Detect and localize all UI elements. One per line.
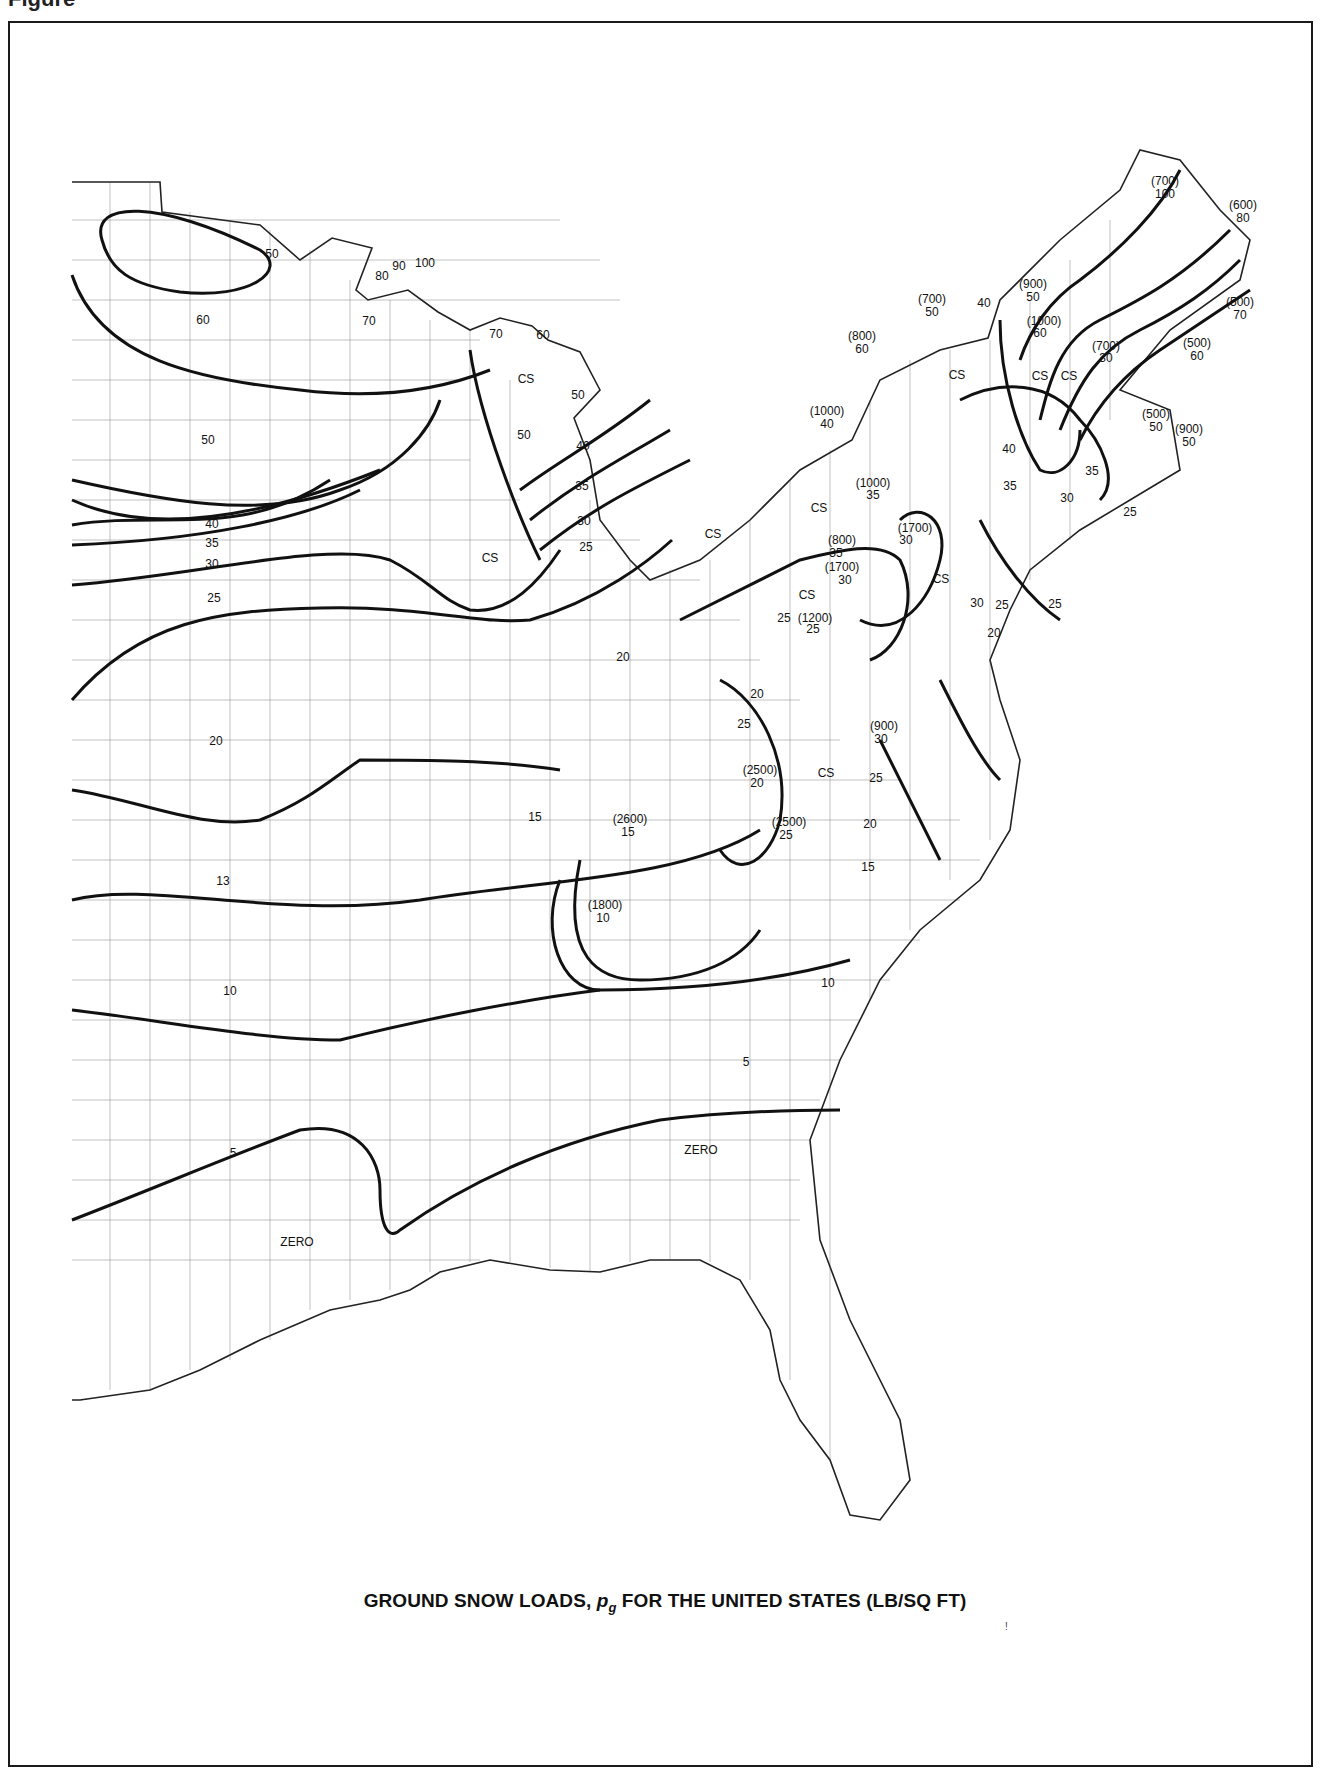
contour-label: 60 bbox=[855, 342, 869, 356]
contour-label: (2600) bbox=[613, 812, 648, 826]
contour-label: (900) bbox=[1175, 422, 1203, 436]
contour-label: 25 bbox=[869, 771, 883, 785]
contour-label: 25 bbox=[995, 598, 1009, 612]
contour-label: 20 bbox=[750, 687, 764, 701]
contour-label: 50 bbox=[571, 388, 585, 402]
contour-label: 100 bbox=[1155, 187, 1175, 201]
contour-label: 20 bbox=[750, 776, 764, 790]
contour-label: 35 bbox=[205, 536, 219, 550]
contour-label: 25 bbox=[1123, 505, 1137, 519]
contour-label: 25 bbox=[207, 591, 221, 605]
contour-label: 30 bbox=[1099, 351, 1113, 365]
contour-label: (500) bbox=[1226, 295, 1254, 309]
contour-label: 50 bbox=[1182, 435, 1196, 449]
contour-label: 10 bbox=[223, 984, 237, 998]
contour-label: 70 bbox=[362, 314, 376, 328]
contour-label: 15 bbox=[861, 860, 875, 874]
contour-label: (900) bbox=[870, 719, 898, 733]
contour-label: 50 bbox=[925, 305, 939, 319]
title-text-rest: FOR THE UNITED STATES (LB/SQ FT) bbox=[616, 1590, 966, 1611]
contour-label: 80 bbox=[1236, 211, 1250, 225]
snow-load-map: 50 60 50 80 90 100 70 70 60 CS 50 50 40 … bbox=[0, 0, 1330, 1785]
contour-label: 30 bbox=[899, 533, 913, 547]
contour-label: 25 bbox=[806, 622, 820, 636]
contour-label: 30 bbox=[838, 573, 852, 587]
contour-label: (500) bbox=[1183, 336, 1211, 350]
contour-label: CS bbox=[518, 372, 535, 386]
contour-label: 40 bbox=[1002, 442, 1016, 456]
contour-label: CS bbox=[811, 501, 828, 515]
contour-label: 30 bbox=[577, 514, 591, 528]
contour-label: (600) bbox=[1229, 198, 1257, 212]
contour-label: 40 bbox=[576, 439, 590, 453]
contour-label: 50 bbox=[1026, 290, 1040, 304]
contour-label: 60 bbox=[1190, 349, 1204, 363]
contour-label: 40 bbox=[205, 517, 219, 531]
contour-label: 25 bbox=[779, 828, 793, 842]
contour-label: 70 bbox=[1233, 308, 1247, 322]
contour-label: ZERO bbox=[684, 1143, 717, 1157]
contour-label: 30 bbox=[1060, 491, 1074, 505]
contour-label: 35 bbox=[829, 546, 843, 560]
title-text: GROUND SNOW LOADS, bbox=[364, 1590, 597, 1611]
contour-label: 15 bbox=[528, 810, 542, 824]
contour-label: 35 bbox=[1085, 464, 1099, 478]
contour-label: ZERO bbox=[280, 1235, 313, 1249]
contour-label: 40 bbox=[820, 417, 834, 431]
contour-label: 5 bbox=[230, 1146, 237, 1160]
contour-lines bbox=[72, 170, 1250, 1234]
contour-label: CS bbox=[1032, 369, 1049, 383]
contour-label: (700) bbox=[918, 292, 946, 306]
contour-label: 100 bbox=[415, 256, 435, 270]
contour-labels: 50 60 50 80 90 100 70 70 60 CS 50 50 40 … bbox=[196, 174, 1257, 1249]
contour-label: 25 bbox=[737, 717, 751, 731]
stray-mark: ! bbox=[1005, 1621, 1008, 1632]
land-outline bbox=[72, 150, 1250, 1520]
contour-label: (1700) bbox=[825, 560, 860, 574]
contour-label: 25 bbox=[777, 611, 791, 625]
title-symbol: p bbox=[597, 1590, 609, 1611]
contour-label: 20 bbox=[616, 650, 630, 664]
contour-label: 15 bbox=[621, 825, 635, 839]
contour-label: 20 bbox=[987, 626, 1001, 640]
contour-label: CS bbox=[1061, 369, 1078, 383]
contour-label: 50 bbox=[1149, 420, 1163, 434]
contour-label: CS bbox=[949, 368, 966, 382]
contour-label: (1000) bbox=[810, 404, 845, 418]
contour-label: 60 bbox=[1033, 326, 1047, 340]
contour-label: (800) bbox=[848, 329, 876, 343]
contour-label: 40 bbox=[977, 296, 991, 310]
contour-label: 35 bbox=[866, 488, 880, 502]
contour-label: 10 bbox=[596, 911, 610, 925]
contour-label: 60 bbox=[536, 328, 550, 342]
contour-label: 90 bbox=[392, 259, 406, 273]
contour-label: 5 bbox=[743, 1055, 750, 1069]
contour-label: (900) bbox=[1019, 277, 1047, 291]
contour-label: 60 bbox=[196, 313, 210, 327]
contour-label: CS bbox=[482, 551, 499, 565]
contour-label: (2500) bbox=[772, 815, 807, 829]
contour-label: 10 bbox=[821, 976, 835, 990]
contour-label: (2500) bbox=[743, 763, 778, 777]
contour-label: CS bbox=[799, 588, 816, 602]
contour-label: 70 bbox=[489, 327, 503, 341]
contour-label: 80 bbox=[375, 269, 389, 283]
contour-label: 25 bbox=[579, 540, 593, 554]
contour-label: 35 bbox=[1003, 479, 1017, 493]
contour-label: (700) bbox=[1151, 174, 1179, 188]
contour-label: (1800) bbox=[588, 898, 623, 912]
contour-label: 30 bbox=[205, 557, 219, 571]
map-title: GROUND SNOW LOADS, pg FOR THE UNITED STA… bbox=[0, 1590, 1330, 1615]
contour-label: CS bbox=[818, 766, 835, 780]
contour-label: 30 bbox=[970, 596, 984, 610]
contour-label: 13 bbox=[216, 874, 230, 888]
contour-label: 50 bbox=[517, 428, 531, 442]
contour-label: 20 bbox=[209, 734, 223, 748]
contour-label: 50 bbox=[265, 247, 279, 261]
contour-label: CS bbox=[705, 527, 722, 541]
contour-label: 30 bbox=[874, 732, 888, 746]
contour-label: CS bbox=[933, 572, 950, 586]
contour-label: 20 bbox=[863, 817, 877, 831]
contour-label: (800) bbox=[828, 533, 856, 547]
contour-label: (500) bbox=[1142, 407, 1170, 421]
